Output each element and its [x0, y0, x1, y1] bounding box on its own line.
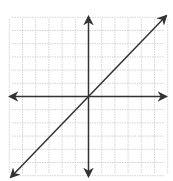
- coordinate-graph: [0, 0, 173, 181]
